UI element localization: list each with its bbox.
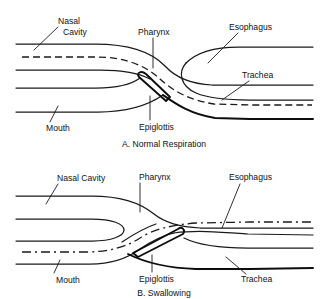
leader-mouth — [50, 106, 58, 122]
label-nasal-cavity-line2: Cavity — [63, 27, 88, 37]
leader-trachea-b — [226, 257, 246, 274]
trachea-front-wall — [163, 95, 313, 119]
leader-trachea — [222, 81, 249, 100]
mouth-floor-line — [16, 95, 163, 112]
label-trachea-b: Trachea — [241, 274, 272, 284]
anatomy-figure-sheet: Nasal Cavity Pharynx Esophagus Trachea M… — [0, 0, 329, 299]
label-epiglottis-b: Epiglottis — [139, 274, 174, 284]
trachea-upper-wall-b — [184, 238, 313, 248]
label-trachea: Trachea — [242, 70, 273, 80]
esophagus-lower-wall — [181, 63, 313, 100]
label-epiglottis: Epiglottis — [139, 122, 174, 132]
label-pharynx: Pharynx — [138, 27, 170, 37]
leader-nasal-cavity-b — [46, 184, 58, 204]
label-mouth-b: Mouth — [56, 275, 80, 285]
mouth-floor-line-b — [16, 233, 174, 264]
mouth-roof-line-b — [16, 219, 124, 241]
label-nasal-cavity-b: Nasal Cavity — [57, 173, 106, 183]
leader-nasal-cavity — [34, 27, 58, 50]
diagram-panel-a-normal-respiration: Nasal Cavity Pharynx Esophagus Trachea M… — [0, 0, 329, 152]
leader-esophagus — [208, 33, 238, 63]
esophagus-lower-wall-b — [174, 231, 313, 235]
mouth-roof-line — [16, 78, 140, 88]
trachea-front-wall-b — [128, 254, 313, 269]
caption-panel-a: A. Normal Respiration — [122, 139, 206, 149]
caption-panel-b: B. Swallowing — [137, 288, 191, 298]
label-nasal-cavity-line1: Nasal — [58, 16, 80, 26]
nasal-cavity-roof-line-b — [16, 196, 313, 228]
leader-esophagus-b — [222, 184, 240, 228]
leader-mouth-b — [54, 260, 60, 273]
esophagus-upper-wall — [186, 47, 313, 63]
soft-palate-line — [16, 70, 150, 79]
diagram-panel-b-swallowing: Nasal Cavity Pharynx Esophagus Trachea M… — [0, 150, 329, 299]
label-esophagus: Esophagus — [229, 22, 272, 32]
label-mouth: Mouth — [46, 123, 70, 133]
label-esophagus-b: Esophagus — [229, 172, 272, 182]
label-pharynx-b: Pharynx — [139, 172, 171, 182]
